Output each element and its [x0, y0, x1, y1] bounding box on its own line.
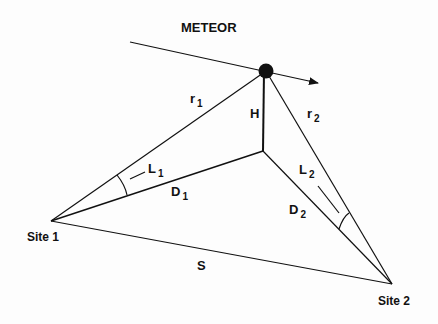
d1-label-sub: 1	[182, 191, 188, 202]
l1-angle-arc	[117, 175, 127, 195]
r1-label: r1	[190, 92, 203, 105]
h-line	[263, 71, 264, 151]
meteor-trajectory-arrow	[130, 42, 318, 83]
r1-label-sub: 1	[197, 98, 203, 109]
r2-label: r2	[307, 107, 320, 120]
diagram-lines	[0, 0, 438, 324]
d1-label-main: D	[171, 184, 180, 199]
l2-label: L2	[299, 163, 315, 176]
meteor-triangulation-diagram: METEOR r1 r2 H L1 D1 L2 D2 S Site 1 Site…	[0, 0, 438, 324]
l1-label-sub: 1	[158, 168, 164, 179]
l2-label-main: L	[299, 162, 307, 177]
meteor-dot	[259, 64, 274, 79]
meteor-title: METEOR	[181, 21, 237, 34]
s-label: S	[197, 259, 206, 272]
d1-label: D1	[171, 185, 188, 198]
l2-angle-arc	[339, 213, 349, 229]
h-label: H	[250, 107, 259, 120]
site-2-label: Site 2	[378, 295, 410, 307]
site-1-label: Site 1	[27, 231, 59, 243]
d2-label-main: D	[289, 202, 298, 217]
l1-label: L1	[148, 162, 164, 175]
r2-label-sub: 2	[314, 113, 320, 124]
l2-label-sub: 2	[309, 169, 315, 180]
r1-label-main: r	[190, 91, 195, 106]
l1-label-main: L	[148, 161, 156, 176]
l1-leader	[130, 172, 145, 179]
d2-label-sub: 2	[300, 209, 306, 220]
r2-line	[266, 71, 392, 284]
d2-label: D2	[289, 203, 306, 216]
r1-line	[51, 71, 266, 221]
r2-label-main: r	[307, 106, 312, 121]
